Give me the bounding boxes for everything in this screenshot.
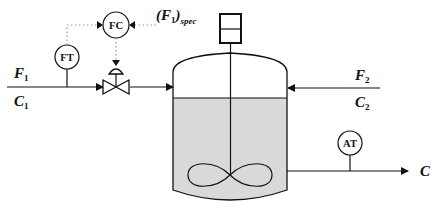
signal-arrow-fc-to-valve xyxy=(112,60,120,66)
agitator-motor-icon xyxy=(220,14,241,43)
outlet-conc-label: C xyxy=(420,163,431,179)
signal-arrow-ft-to-fc xyxy=(97,21,103,29)
setpoint-label: (F1)spec xyxy=(156,7,197,26)
feed2-conc-label: C2 xyxy=(355,94,370,112)
flow-transmitter-label: FT xyxy=(60,52,73,63)
signal-arrow-spec-to-fc xyxy=(129,21,135,29)
flow-controller-label: FC xyxy=(109,20,123,31)
process-diagram: FT FC (F1)spec F1 C1 F2 C2 AT C xyxy=(0,0,436,209)
feed1-conc-label: C1 xyxy=(14,93,29,111)
analyzer-transmitter-label: AT xyxy=(343,138,357,149)
feed1-flow-label: F1 xyxy=(13,65,29,83)
control-valve-icon xyxy=(103,69,129,94)
feed2-flow-label: F2 xyxy=(354,67,370,85)
